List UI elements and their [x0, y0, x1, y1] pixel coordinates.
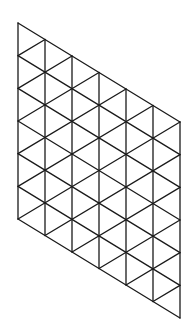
ascending-grid-line [18, 40, 45, 56]
ascending-grid-line [45, 155, 180, 236]
rhombus-triangle-grid [0, 0, 194, 321]
ascending-grid-line [153, 285, 180, 301]
ascending-grid-line [18, 106, 153, 187]
triangular-grid-diagram [0, 0, 194, 321]
